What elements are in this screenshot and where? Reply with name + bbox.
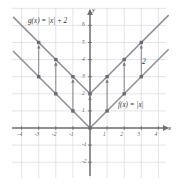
y-tick-label: 6 xyxy=(82,21,85,27)
x-tick-label: 3 xyxy=(137,131,140,137)
x-tick-label: -1 xyxy=(69,131,74,137)
graph-figure: x y g(x) = |x| + 2 f(x) = |x| 2 -4-3-2-1… xyxy=(0,0,178,186)
x-tick-label: -4 xyxy=(18,131,23,137)
y-tick-label: 5 xyxy=(82,39,85,45)
y-axis-label: y xyxy=(92,6,95,14)
y-tick-label: 2 xyxy=(82,90,85,96)
x-tick-label: -2 xyxy=(52,131,57,137)
x-tick-label: 2 xyxy=(120,131,123,137)
x-tick-label: 4 xyxy=(154,131,157,137)
y-tick-label: 3 xyxy=(82,73,85,79)
y-tick-label: 1 xyxy=(82,107,85,113)
g-function-label: g(x) = |x| + 2 xyxy=(28,17,67,25)
y-tick-label: 4 xyxy=(82,56,85,62)
x-tick-label: 1 xyxy=(103,131,106,137)
x-axis-label: x xyxy=(168,124,171,132)
f-function-label: f(x) = |x| xyxy=(118,101,144,109)
y-tick-label: -1 xyxy=(82,141,87,147)
shift-amount-label: 2 xyxy=(142,57,146,66)
y-tick-label: -2 xyxy=(82,158,87,164)
x-tick-label: -3 xyxy=(35,131,40,137)
coordinate-plane xyxy=(0,0,178,186)
